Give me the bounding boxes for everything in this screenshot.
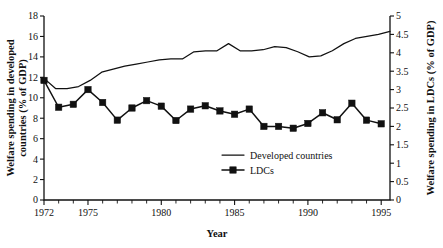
data-point-marker xyxy=(70,101,76,107)
x-tick-label: 1985 xyxy=(225,207,245,218)
left-tick-label: 2 xyxy=(33,174,38,185)
data-point-marker xyxy=(41,77,47,83)
data-point-marker xyxy=(231,111,237,117)
data-point-marker xyxy=(290,125,296,131)
series-line-ldcs xyxy=(44,80,381,128)
data-point-marker xyxy=(202,103,208,109)
data-point-marker xyxy=(275,123,281,129)
data-point-marker xyxy=(305,120,311,126)
right-tick-label: 5 xyxy=(396,10,401,21)
series-group xyxy=(41,31,390,131)
x-tick-label: 1980 xyxy=(151,207,171,218)
chart-container: 02468101214161800.511.522.533.544.551972… xyxy=(0,0,443,248)
data-point-marker xyxy=(363,117,369,123)
x-axis-title: Year xyxy=(207,228,228,239)
left-tick-label: 12 xyxy=(28,72,38,83)
y2-axis-title: Welfare spending in LDCs (% of GDP) xyxy=(425,20,437,195)
left-tick-label: 6 xyxy=(33,133,38,144)
left-tick-label: 4 xyxy=(33,154,38,165)
welfare-spending-chart: 02468101214161800.511.522.533.544.551972… xyxy=(0,0,443,248)
data-point-marker xyxy=(378,121,384,127)
right-tick-label: 4 xyxy=(396,47,401,58)
data-point-marker xyxy=(217,108,223,114)
right-tick-label: 2.5 xyxy=(396,102,409,113)
x-tick-label: 1972 xyxy=(34,207,54,218)
left-axis: 024681012141618 xyxy=(28,10,44,205)
right-tick-label: 0 xyxy=(396,194,401,205)
legend-swatch-marker xyxy=(230,167,236,173)
y-axis-title-line1: Welfare spending in developed xyxy=(5,39,16,176)
legend-label-0: Developed countries xyxy=(250,150,333,161)
left-tick-label: 16 xyxy=(28,31,38,42)
data-point-marker xyxy=(55,104,61,110)
data-point-marker xyxy=(143,97,149,103)
x-tick-label: 1990 xyxy=(298,207,318,218)
right-tick-label: 3 xyxy=(396,84,401,95)
right-axis: 00.511.522.533.544.55 xyxy=(390,10,409,205)
data-point-marker xyxy=(349,100,355,106)
data-point-marker xyxy=(187,106,193,112)
left-tick-label: 0 xyxy=(33,194,38,205)
right-tick-label: 3.5 xyxy=(396,66,409,77)
y-axis-title-line2: countries (% of GDP) xyxy=(17,59,29,157)
right-tick-label: 4.5 xyxy=(396,29,409,40)
data-point-marker xyxy=(129,105,135,111)
left-tick-label: 14 xyxy=(28,51,38,62)
data-point-marker xyxy=(99,99,105,105)
x-tick-label: 1995 xyxy=(371,207,391,218)
data-point-marker xyxy=(85,86,91,92)
data-point-marker xyxy=(261,123,267,129)
data-point-marker xyxy=(158,103,164,109)
data-point-marker xyxy=(319,110,325,116)
left-tick-label: 18 xyxy=(28,10,38,21)
left-tick-label: 8 xyxy=(33,113,38,124)
data-point-marker xyxy=(246,106,252,112)
right-tick-label: 2 xyxy=(396,121,401,132)
legend-label-1: LDCs xyxy=(250,165,274,176)
data-point-marker xyxy=(173,117,179,123)
data-point-marker xyxy=(114,117,120,123)
bottom-axis: 197219751980198519901995 xyxy=(34,200,391,218)
right-tick-label: 0.5 xyxy=(396,176,409,187)
legend: Developed countriesLDCs xyxy=(222,150,333,176)
data-point-marker xyxy=(334,117,340,123)
right-tick-label: 1.5 xyxy=(396,139,409,150)
right-tick-label: 1 xyxy=(396,158,401,169)
left-tick-label: 10 xyxy=(28,92,38,103)
x-tick-label: 1975 xyxy=(78,207,98,218)
series-line-developed-countries xyxy=(44,31,390,88)
